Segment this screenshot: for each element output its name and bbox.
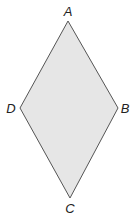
- vertex-label-c: C: [65, 202, 74, 215]
- vertex-label-a: A: [64, 5, 73, 18]
- rhombus-shape: [20, 21, 118, 198]
- rhombus-diagram: [0, 0, 135, 218]
- vertex-label-b: B: [121, 102, 130, 115]
- vertex-label-d: D: [6, 102, 15, 115]
